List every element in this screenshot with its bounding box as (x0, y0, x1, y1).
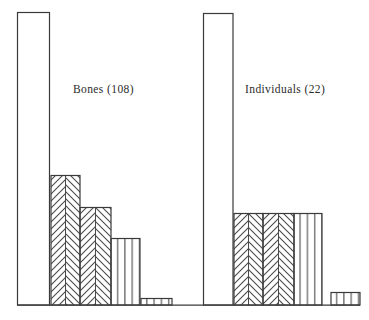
bar-individuals-1[interactable] (204, 14, 234, 306)
bar-hatch-right (66, 176, 81, 306)
bar-bones-3[interactable] (80, 208, 111, 306)
bar-hatch-vertical (141, 299, 172, 306)
bar-hatch-right (249, 214, 264, 306)
bar-hatch-left (263, 214, 279, 306)
bar-bones-1[interactable] (18, 13, 50, 306)
bar-individuals-2[interactable] (234, 214, 263, 306)
bar-bones-4[interactable] (111, 239, 140, 306)
bar-hatch-vertical (331, 293, 360, 306)
bar-bones-2[interactable] (51, 176, 80, 306)
bar-bones-5[interactable] (141, 299, 172, 306)
bar-rect (204, 14, 234, 306)
group-label-individuals: Individuals (22) (245, 83, 325, 95)
bar-hatch-vertical (111, 239, 140, 306)
bar-chart-canvas (0, 0, 369, 320)
group-label-bones: Bones (108) (73, 83, 134, 95)
bar-hatch-left (51, 176, 66, 306)
bars-layer (17, 13, 360, 306)
bar-individuals-5[interactable] (331, 293, 360, 306)
bar-individuals-3[interactable] (263, 214, 294, 306)
bar-group-bones (18, 13, 173, 306)
bar-group-individuals (204, 14, 361, 306)
bar-individuals-4[interactable] (294, 214, 322, 306)
bar-hatch-vertical (294, 214, 322, 306)
bar-rect (18, 13, 50, 306)
bar-hatch-right (96, 208, 112, 306)
bar-hatch-left (80, 208, 96, 306)
bar-hatch-right (279, 214, 295, 306)
chart-figure: Bones (108) Individuals (22) (0, 0, 369, 320)
bar-hatch-left (234, 214, 249, 306)
